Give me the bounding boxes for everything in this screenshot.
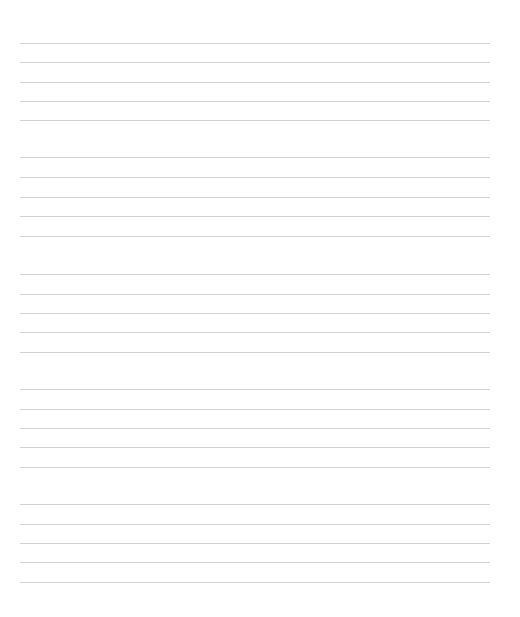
ruled-line (20, 504, 490, 505)
ruled-line (20, 582, 490, 583)
ruled-line (20, 428, 490, 429)
ruled-line (20, 389, 490, 390)
ruled-line (20, 352, 490, 353)
ruled-line (20, 157, 490, 158)
ruled-line (20, 409, 490, 410)
ruled-line (20, 82, 490, 83)
ruled-line (20, 332, 490, 333)
ruled-line (20, 43, 490, 44)
ruled-line (20, 62, 490, 63)
ruled-line (20, 467, 490, 468)
ruled-line (20, 216, 490, 217)
ruled-line (20, 101, 490, 102)
ruled-line (20, 177, 490, 178)
ruled-line (20, 562, 490, 563)
lined-paper-page (0, 0, 520, 617)
ruled-line (20, 236, 490, 237)
ruled-line (20, 274, 490, 275)
ruled-line (20, 543, 490, 544)
ruled-line (20, 447, 490, 448)
ruled-line (20, 197, 490, 198)
ruled-line (20, 313, 490, 314)
ruled-line (20, 524, 490, 525)
ruled-line (20, 120, 490, 121)
ruled-line (20, 294, 490, 295)
